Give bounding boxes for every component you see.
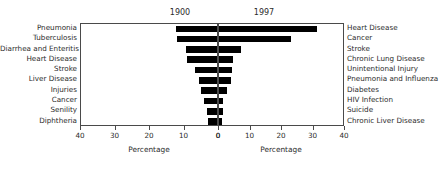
- bar: [207, 108, 217, 115]
- bar-row: [219, 34, 343, 44]
- category-label: Cancer: [347, 33, 442, 43]
- plot-area-right: [218, 23, 344, 126]
- bar: [219, 118, 222, 125]
- x-tick: [115, 126, 116, 130]
- category-label: Pneumonia and Influenza: [347, 74, 442, 84]
- bar-row: [219, 75, 343, 85]
- bar-row: [219, 106, 343, 116]
- bar-row: [81, 34, 217, 44]
- bar: [195, 67, 217, 74]
- bar-row: [81, 106, 217, 116]
- x-tick: [184, 126, 185, 130]
- bar: [219, 108, 223, 115]
- category-label: Senility: [0, 105, 77, 115]
- bar: [219, 36, 291, 43]
- x-tick-labels-left: 403020100: [80, 131, 218, 142]
- bar-series-1997: [219, 24, 343, 125]
- bar: [201, 87, 217, 94]
- bar-row: [219, 86, 343, 96]
- x-tick: [344, 126, 345, 130]
- bar: [187, 56, 217, 63]
- bar-row: [219, 96, 343, 106]
- bar-row: [219, 65, 343, 75]
- chart-figure: 1900 1997 PneumoniaTuberculosisDiarrhea …: [0, 0, 442, 169]
- panel-title-left: 1900: [150, 8, 210, 17]
- bar-row: [81, 45, 217, 55]
- category-label: Suicide: [347, 105, 442, 115]
- x-tick: [281, 126, 282, 130]
- bar-row: [219, 24, 343, 34]
- category-label: Heart Disease: [0, 54, 77, 64]
- x-tick-label: 30: [103, 131, 127, 140]
- x-tick: [250, 126, 251, 130]
- bar-row: [81, 55, 217, 65]
- x-tick: [149, 126, 150, 130]
- bar-row: [81, 75, 217, 85]
- category-label: Diarrhea and Enteritis: [0, 44, 77, 54]
- category-label: Tuberculosis: [0, 33, 77, 43]
- bar: [176, 26, 217, 33]
- x-axis-title-right: Percentage: [218, 145, 344, 154]
- bar-row: [81, 96, 217, 106]
- x-tick-label: 30: [301, 131, 325, 140]
- bar: [219, 46, 241, 53]
- bar: [199, 77, 217, 84]
- bar: [208, 118, 217, 125]
- category-label: Pneumonia: [0, 23, 77, 33]
- x-tick-label: 0: [206, 131, 230, 140]
- category-label: Chronic Liver Disease: [347, 116, 442, 126]
- bar: [219, 87, 227, 94]
- bar: [204, 98, 217, 105]
- x-tick-label: 40: [68, 131, 92, 140]
- x-tick-label: 10: [238, 131, 262, 140]
- bar: [219, 98, 223, 105]
- x-tick: [218, 126, 219, 130]
- x-tick-label: 10: [172, 131, 196, 140]
- bar: [219, 67, 232, 74]
- x-tick-label: 20: [137, 131, 161, 140]
- x-tick-labels-right: 010203040: [218, 131, 344, 142]
- bar: [219, 56, 233, 63]
- bar-row: [81, 65, 217, 75]
- category-labels-right: Heart DiseaseCancerStrokeChronic Lung Di…: [347, 23, 442, 126]
- bar: [186, 46, 217, 53]
- category-label: Diabetes: [347, 85, 442, 95]
- x-tick-label: 40: [332, 131, 356, 140]
- category-label: Diphtheria: [0, 116, 77, 126]
- plot-area-left: [80, 23, 218, 126]
- x-tick-label: 20: [269, 131, 293, 140]
- bar: [219, 26, 317, 33]
- category-label: HIV Infection: [347, 95, 442, 105]
- x-tick: [80, 126, 81, 130]
- category-labels-left: PneumoniaTuberculosisDiarrhea and Enteri…: [0, 23, 77, 126]
- category-label: Liver Disease: [0, 74, 77, 84]
- x-axis-title-left: Percentage: [80, 145, 218, 154]
- x-tick: [313, 126, 314, 130]
- bar-row: [81, 86, 217, 96]
- category-label: Injuries: [0, 85, 77, 95]
- bar-row: [219, 55, 343, 65]
- category-label: Chronic Lung Disease: [347, 54, 442, 64]
- category-label: Heart Disease: [347, 23, 442, 33]
- category-label: Unintentional Injury: [347, 64, 442, 74]
- bar-row: [219, 45, 343, 55]
- category-label: Stroke: [347, 44, 442, 54]
- bar-row: [81, 24, 217, 34]
- bar-series-1900: [81, 24, 217, 125]
- panel-title-right: 1997: [234, 8, 294, 17]
- bar: [219, 77, 231, 84]
- bar: [177, 36, 217, 43]
- category-label: Stroke: [0, 64, 77, 74]
- category-label: Cancer: [0, 95, 77, 105]
